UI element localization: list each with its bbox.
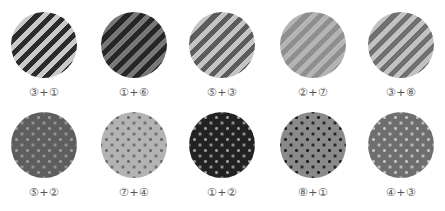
striped-circle (368, 12, 434, 78)
dotted-circle (280, 112, 346, 178)
swatch-label: ③+① (0, 87, 88, 99)
stripe-swatch: ①+⑥ (90, 12, 178, 99)
dotted-circle (368, 112, 434, 178)
dot-swatch: ①+② (178, 112, 266, 199)
swatch-label: ①+⑥ (90, 87, 178, 99)
stripe-swatch: ③+⑧ (357, 12, 445, 99)
striped-circle (101, 12, 167, 78)
dot-swatch: ⑦+④ (90, 112, 178, 199)
stripe-swatch: ⑤+③ (178, 12, 266, 99)
swatch-label: ⑤+③ (178, 87, 266, 99)
stripe-swatch: ③+① (0, 12, 88, 99)
dotted-circle (101, 112, 167, 178)
swatch-label: ①+② (178, 187, 266, 199)
striped-circle (11, 12, 77, 78)
stripe-swatch: ②+⑦ (269, 12, 357, 99)
swatch-label: ②+⑦ (269, 87, 357, 99)
swatch-label: ⑧+① (269, 187, 357, 199)
swatch-label: ③+⑧ (357, 87, 445, 99)
swatch-label: ⑦+④ (90, 187, 178, 199)
dotted-circle (11, 112, 77, 178)
swatch-label: ⑤+② (0, 187, 88, 199)
dot-swatch: ⑧+① (269, 112, 357, 199)
striped-circle (280, 12, 346, 78)
dotted-circle (189, 112, 255, 178)
dot-swatch: ④+③ (357, 112, 445, 199)
dot-swatch: ⑤+② (0, 112, 88, 199)
striped-circle (189, 12, 255, 78)
swatch-label: ④+③ (357, 187, 445, 199)
